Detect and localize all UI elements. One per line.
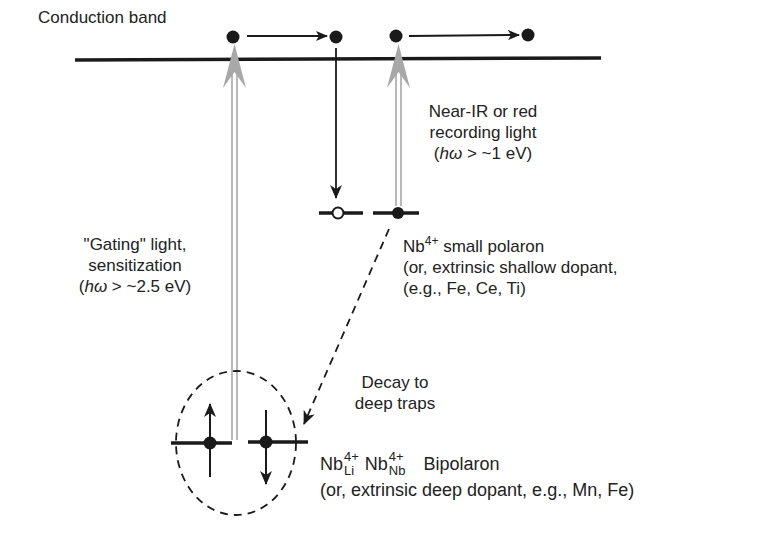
bipolaron-charge2: 4+ — [389, 450, 406, 464]
recording-light-energy: (hω > ~1 eV) — [408, 143, 558, 164]
gating-light-label: "Gating" light, sensitization (hω > ~2.5… — [40, 234, 230, 297]
recording-light-line1: Near-IR or red — [408, 101, 558, 122]
filled-trap-dot — [392, 207, 404, 219]
gating-light-line2: sensitization — [40, 255, 230, 276]
gating-energy-symbol: hω — [84, 277, 107, 296]
gating-energy-suffix: > ~2.5 eV) — [107, 277, 191, 296]
bipolaron-site1: Li — [344, 464, 359, 478]
bipolaron-line2: (or, extrinsic deep dopant, e.g., Mn, Fe… — [320, 480, 634, 501]
recording-light-arrow — [387, 44, 410, 206]
electron-dot-cb-1 — [227, 31, 240, 44]
recording-light-label: Near-IR or red recording light (hω > ~1 … — [408, 101, 558, 164]
small-polaron-species: Nb — [403, 237, 425, 256]
bipolaron-species1: Nb — [320, 454, 343, 475]
empty-trap-circle — [333, 208, 344, 219]
bipolaron-charge1: 4+ — [344, 450, 359, 464]
small-polaron-suffix: small polaron — [438, 237, 544, 256]
bipolaron-title: Nb4+Li Nb4+Nb Bipolaron — [320, 448, 634, 480]
gating-light-line1: "Gating" light, — [40, 234, 230, 255]
electron-dot-cb-3 — [390, 30, 403, 43]
transport-arrow-2 — [409, 35, 519, 36]
small-polaron-title: Nb4+ small polaron — [403, 236, 618, 257]
recording-energy-symbol: hω — [440, 144, 463, 163]
electron-dot-cb-4 — [522, 29, 535, 42]
small-polaron-line3: (e.g., Fe, Ce, Ti) — [403, 278, 618, 299]
bipolaron-label: Nb4+Li Nb4+Nb Bipolaron (or, extrinsic d… — [320, 448, 634, 501]
small-polaron-label: Nb4+ small polaron (or, extrinsic shallo… — [403, 236, 618, 299]
bipolaron-name: Bipolaron — [423, 454, 499, 475]
decay-line1: Decay to — [340, 372, 450, 393]
gating-light-energy: (hω > ~2.5 eV) — [40, 276, 230, 297]
conduction-band-line — [75, 58, 601, 60]
bipolaron-species2: Nb — [365, 454, 388, 475]
small-polaron-line2: (or, extrinsic shallow dopant, — [403, 257, 618, 278]
small-polaron-charge: 4+ — [425, 234, 439, 248]
electron-dot-cb-2 — [330, 31, 343, 44]
bipolaron-site2: Nb — [389, 464, 406, 478]
decay-line2: deep traps — [340, 393, 450, 414]
decay-label: Decay to deep traps — [340, 372, 450, 414]
recording-light-line2: recording light — [408, 122, 558, 143]
conduction-band-label: Conduction band — [38, 7, 167, 28]
recording-energy-suffix: > ~1 eV) — [462, 144, 532, 163]
